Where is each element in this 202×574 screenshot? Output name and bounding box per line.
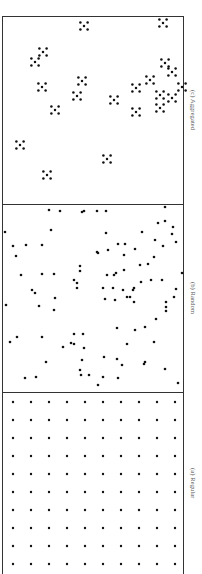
panel-aggregated [2,16,184,204]
label-regular: (a) Regular [186,392,200,574]
panel-regular [2,392,184,574]
label-aggregated-text: (c) Aggregated [190,90,197,130]
label-random: (b) Random [186,204,200,392]
label-regular-text: (a) Regular [190,468,197,499]
label-aggregated: (c) Aggregated [186,16,200,204]
label-random-text: (b) Random [190,282,197,314]
panel-random [2,204,184,392]
